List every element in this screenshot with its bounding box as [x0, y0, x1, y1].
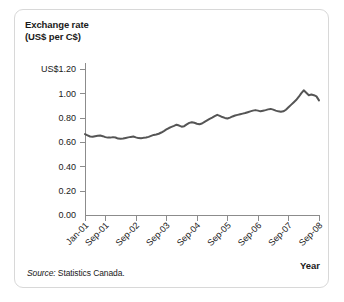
source-value: Statistics Canada.	[56, 268, 125, 278]
figure-card: Exchange rate (US$ per C$) US$1.201.000.…	[14, 9, 329, 288]
x-axis-tick-label: Sep-02	[114, 220, 142, 248]
y-axis-tick-label: 0.40	[58, 162, 76, 172]
x-axis-tick-label: Sep-07	[266, 220, 294, 248]
x-axis-tick-label: Sep-06	[236, 220, 264, 248]
y-axis-tick-label: US$1.20	[41, 64, 76, 74]
exchange-rate-line-series	[85, 90, 319, 139]
x-axis-tick-label: Sep-03	[144, 220, 172, 248]
y-axis-tick-label: 0.00	[58, 210, 76, 220]
x-axis-tick-label: Sep-04	[175, 220, 203, 248]
source-label: Source:	[27, 268, 56, 278]
y-axis-tick-label: 0.80	[58, 113, 76, 123]
chart-plot-area: US$1.201.000.800.600.400.200.00Jan-01Sep…	[15, 10, 330, 289]
y-axis-tick-label: 1.00	[58, 89, 76, 99]
y-axis-tick-label: 0.20	[58, 186, 76, 196]
x-axis-tick-label: Sep-05	[205, 220, 233, 248]
source-note: Source: Statistics Canada.	[27, 268, 125, 278]
y-axis-tick-label: 0.60	[58, 137, 76, 147]
x-axis-title: Year	[300, 260, 320, 271]
x-axis-tick-label: Sep-08	[297, 220, 325, 248]
